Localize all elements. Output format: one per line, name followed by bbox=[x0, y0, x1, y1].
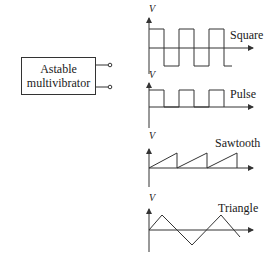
square-v-axis-label: V bbox=[149, 4, 155, 14]
sawtooth-label: Sawtooth bbox=[215, 137, 260, 149]
triangle-v-axis-label: V bbox=[149, 193, 155, 203]
square-label: Square bbox=[230, 29, 263, 41]
sawtooth-wave bbox=[149, 149, 253, 187]
pulse-label: Pulse bbox=[230, 88, 256, 100]
triangle-label: Triangle bbox=[218, 202, 258, 214]
triangle-wave bbox=[149, 209, 253, 252]
sawtooth-v-axis-label: V bbox=[149, 131, 155, 141]
output-terminals bbox=[96, 63, 112, 89]
square-wave bbox=[149, 18, 253, 74]
pulse-v-axis-label: V bbox=[149, 70, 155, 80]
